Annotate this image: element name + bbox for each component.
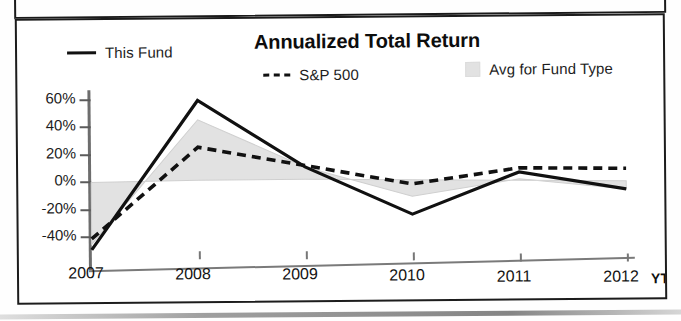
chart-plot-area xyxy=(17,15,665,303)
chart-frame: Annualized Total Return This Fund S&P 50… xyxy=(15,13,667,305)
chart-inner: Annualized Total Return This Fund S&P 50… xyxy=(17,15,665,303)
scanned-chart-page: Annualized Total Return This Fund S&P 50… xyxy=(0,0,681,321)
scan-artifact-bottom-shadow xyxy=(0,310,681,320)
